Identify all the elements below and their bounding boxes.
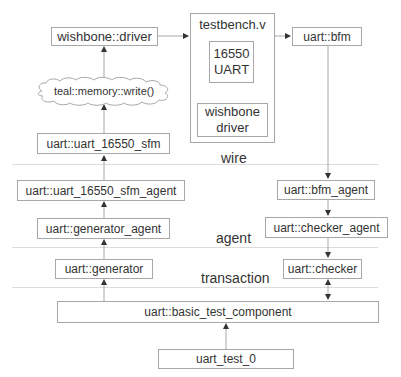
bfm-agent-box: uart::bfm_agent bbox=[277, 180, 375, 200]
uart-bfm-box: uart::bfm bbox=[292, 27, 362, 46]
basic-test-component-box: uart::basic_test_component bbox=[57, 301, 379, 323]
memory-write-label: teal::memory::write() bbox=[34, 76, 174, 106]
testbench-title: testbench.v bbox=[191, 17, 274, 32]
uart-test-0-box: uart_test_0 bbox=[158, 349, 294, 369]
wishbone-inner-line1: wishbone bbox=[205, 104, 260, 120]
wire-layer-label: wire bbox=[221, 150, 247, 166]
transaction-layer-label: transaction bbox=[201, 270, 269, 286]
uart-16550-sfm-box: uart::uart_16550_sfm bbox=[37, 133, 170, 154]
uart-16550-line2: UART bbox=[214, 62, 249, 78]
agent-layer-label: agent bbox=[216, 230, 251, 246]
wishbone-driver-inner-box: wishbone driver bbox=[197, 103, 268, 137]
wishbone-driver-box: wishbone::driver bbox=[51, 27, 158, 46]
wishbone-inner-line2: driver bbox=[216, 120, 249, 136]
generator-box: uart::generator bbox=[55, 259, 153, 279]
generator-agent-box: uart::generator_agent bbox=[37, 218, 170, 239]
uart-16550-box: 16550 UART bbox=[209, 41, 254, 83]
checker-box: uart::checker bbox=[283, 259, 362, 279]
uart-16550-sfm-agent-box: uart::uart_16550_sfm_agent bbox=[17, 180, 185, 201]
testbench-box: testbench.v 16550 UART wishbone driver bbox=[190, 13, 275, 143]
uart-16550-line1: 16550 bbox=[213, 46, 249, 62]
checker-agent-box: uart::checker_agent bbox=[265, 217, 388, 238]
